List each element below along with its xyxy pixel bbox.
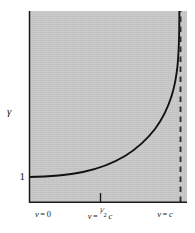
- one-half-fraction: 1⁄2: [99, 210, 108, 219]
- x-tick-half-c: c: [108, 211, 112, 221]
- y-tick-label-1: 1: [14, 171, 25, 182]
- gamma-curve: [29, 11, 179, 177]
- fraction-denominator: 2: [104, 212, 107, 219]
- x-tick-zero-eq: =: [39, 209, 47, 219]
- x-tick-label-c: v=c: [157, 210, 172, 219]
- plot-area: [29, 11, 187, 202]
- plot-curves: [29, 11, 187, 202]
- lorentz-factor-figure: γ 1 v=0 v=1⁄2c v=c: [0, 0, 195, 233]
- x-tick-zero-value: 0: [47, 209, 51, 219]
- x-tick-c-value: c: [169, 209, 173, 219]
- x-tick-c-eq: =: [161, 209, 169, 219]
- y-axis-label: γ: [7, 106, 11, 117]
- x-tick-half-eq: =: [92, 211, 100, 221]
- x-tick-label-half-c: v=1⁄2c: [88, 210, 112, 221]
- x-tick-label-zero: v=0: [35, 210, 51, 219]
